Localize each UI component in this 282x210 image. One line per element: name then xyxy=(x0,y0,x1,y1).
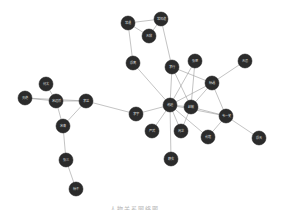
figure-caption: 人物关系网络图 xyxy=(110,204,230,210)
graph-node[interactable]: 殷离 xyxy=(126,56,140,70)
edge xyxy=(161,19,172,67)
graph-node[interactable]: 李行 xyxy=(165,60,179,74)
graph-canvas: 常遇常知道无敌殷离李行张翠无忌杨逍谢逊赵敏韦一笑李宇严武周芷俞莲殷天静玄何太灭绝… xyxy=(0,0,282,210)
node-label: 李行 xyxy=(169,64,176,69)
graph-node[interactable]: 常知道 xyxy=(154,12,168,26)
node-label: 静玄 xyxy=(168,156,174,161)
node-label: 赵敏 xyxy=(188,104,195,109)
graph-node[interactable]: 俞莲 xyxy=(201,130,215,144)
graph-node[interactable]: 杨逍 xyxy=(205,76,219,90)
graph-node[interactable]: 宋青 xyxy=(56,119,70,133)
node-label: 李益 xyxy=(83,98,90,103)
node-label: 常遇 xyxy=(125,20,132,25)
graph-node[interactable]: 谢逊 xyxy=(163,98,177,112)
node-label: 杨逍 xyxy=(209,80,216,85)
graph-node[interactable]: 赵敏 xyxy=(184,100,198,114)
edge xyxy=(133,63,170,105)
graph-node[interactable]: 李宇 xyxy=(129,107,143,121)
node-label: 殷天 xyxy=(256,135,263,140)
node-label: 宋远桥 xyxy=(52,98,62,103)
edge xyxy=(170,105,171,159)
node-label: 殷离 xyxy=(130,60,136,65)
graph-node[interactable]: 殷天 xyxy=(252,131,266,145)
graph-node[interactable]: 李益 xyxy=(79,94,93,108)
node-label: 严武 xyxy=(149,128,156,133)
node-layer: 常遇常知道无敌殷离李行张翠无忌杨逍谢逊赵敏韦一笑李宇严武周芷俞莲殷天静玄何太灭绝… xyxy=(18,12,266,196)
graph-node[interactable]: 杨不 xyxy=(69,182,83,196)
edge xyxy=(86,101,136,114)
graph-node[interactable]: 张三 xyxy=(59,153,73,167)
graph-node[interactable]: 无忌 xyxy=(238,54,252,68)
graph-node[interactable]: 韦一笑 xyxy=(219,109,233,123)
graph-node[interactable]: 常遇 xyxy=(121,16,135,30)
graph-node[interactable]: 周芷 xyxy=(174,124,188,138)
network-graph: 常遇常知道无敌殷离李行张翠无忌杨逍谢逊赵敏韦一笑李宇严武周芷俞莲殷天静玄何太灭绝… xyxy=(0,0,282,210)
node-label: 张翠 xyxy=(192,58,199,63)
node-label: 宋青 xyxy=(60,123,66,128)
node-label: 杨不 xyxy=(73,186,80,191)
graph-node[interactable]: 张翠 xyxy=(188,54,202,68)
node-label: 韦一笑 xyxy=(222,113,232,118)
graph-node[interactable]: 无敌 xyxy=(142,29,156,43)
graph-node[interactable]: 宋远桥 xyxy=(49,94,63,108)
node-label: 俞莲 xyxy=(205,134,212,139)
node-label: 无敌 xyxy=(146,33,153,38)
node-label: 何太 xyxy=(43,81,50,86)
node-label: 无忌 xyxy=(242,59,248,63)
graph-node[interactable]: 灭绝 xyxy=(18,91,32,105)
node-label: 张三 xyxy=(63,157,69,162)
node-label: 李宇 xyxy=(133,111,139,116)
graph-node[interactable]: 何太 xyxy=(39,77,53,91)
graph-node[interactable]: 严武 xyxy=(145,124,159,138)
node-label: 谢逊 xyxy=(167,102,174,107)
node-label: 周芷 xyxy=(178,128,184,133)
graph-node[interactable]: 静玄 xyxy=(164,152,178,166)
node-label: 灭绝 xyxy=(22,95,29,100)
node-label: 常知道 xyxy=(157,16,167,21)
